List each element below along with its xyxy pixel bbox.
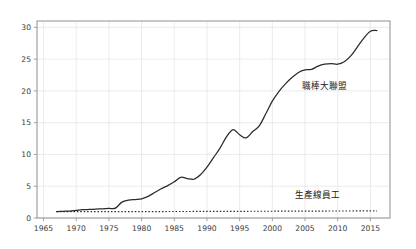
chart-container: 051015202530 196519701975198019851990199… bbox=[0, 0, 416, 249]
y-tick-label: 0 bbox=[26, 214, 31, 223]
series-label-2: 生產線員工 bbox=[295, 189, 340, 200]
x-tick-label: 1995 bbox=[230, 224, 249, 233]
x-tick-label: 1990 bbox=[197, 224, 216, 233]
x-tick-label: 2000 bbox=[263, 224, 282, 233]
x-tick-label: 1980 bbox=[132, 224, 151, 233]
x-axis-tick-labels: 1965197019751980198519901995200020052010… bbox=[34, 224, 380, 233]
x-tick-label: 2005 bbox=[295, 224, 314, 233]
line-chart: 051015202530 196519701975198019851990199… bbox=[0, 0, 416, 249]
y-tick-label: 30 bbox=[21, 23, 31, 32]
plot-background bbox=[37, 21, 390, 218]
plot-area-background bbox=[37, 21, 390, 218]
x-tick-label: 1970 bbox=[67, 224, 86, 233]
y-axis-tick-labels: 051015202530 bbox=[21, 23, 31, 223]
x-tick-label: 1975 bbox=[99, 224, 118, 233]
y-tick-label: 25 bbox=[21, 55, 31, 64]
series-label-1: 職棒大聯盟 bbox=[302, 80, 347, 91]
x-tick-label: 2015 bbox=[361, 224, 380, 233]
x-tick-label: 1965 bbox=[34, 224, 53, 233]
y-tick-label: 20 bbox=[21, 87, 31, 96]
x-tick-label: 1985 bbox=[165, 224, 184, 233]
y-tick-label: 15 bbox=[21, 118, 31, 127]
x-tick-label: 2010 bbox=[328, 224, 347, 233]
y-tick-label: 10 bbox=[21, 150, 31, 159]
y-tick-label: 5 bbox=[26, 182, 31, 191]
